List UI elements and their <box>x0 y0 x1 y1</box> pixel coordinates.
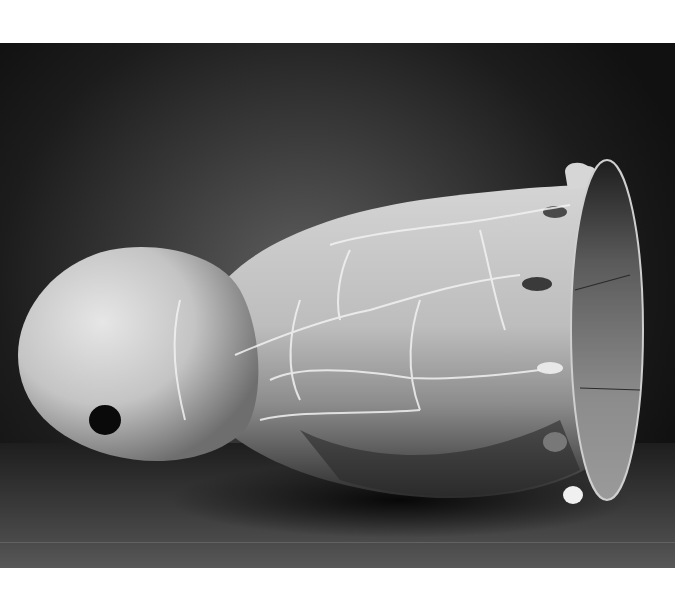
vessel-hole <box>89 405 121 435</box>
perforation <box>522 277 552 291</box>
artifact-photo <box>0 43 675 568</box>
perforation <box>537 362 563 374</box>
ceramic-vessel <box>0 43 675 568</box>
vessel-bulb <box>18 247 258 461</box>
perforation <box>563 486 583 504</box>
vessel-mouth <box>571 160 643 500</box>
